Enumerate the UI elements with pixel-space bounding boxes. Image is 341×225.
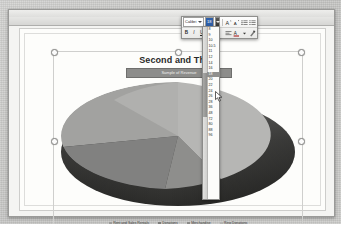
legend-label: Rent and Sales Rentals [113,221,149,224]
chart-object-frame[interactable]: Second and Third Sample of Revenue [53,51,303,224]
numbered-list-button[interactable] [249,18,256,26]
chevron-down-icon [198,21,202,23]
legend-item[interactable]: Ring Donations [220,221,248,224]
slide-canvas[interactable]: Second and Third Sample of Revenue [19,28,326,211]
pie-chart[interactable] [61,82,295,212]
pie-top-face [61,82,295,190]
font-color-button[interactable]: A [233,29,240,37]
font-size-value: 18 [207,19,211,24]
chevron-down-icon[interactable] [241,29,248,37]
legend-label: Merchandise [191,221,210,224]
grow-font-button[interactable]: A [225,18,232,26]
dropdown-option[interactable]: 96 [207,133,219,139]
legend-swatch-icon [158,222,161,225]
legend-swatch-icon [220,222,223,225]
app-root: Second and Third Sample of Revenue [0,0,341,224]
resize-handle-n[interactable] [175,49,182,56]
italic-button[interactable]: I [191,29,198,37]
legend-swatch-icon [187,222,190,225]
font-name-value: Calibri [185,19,196,24]
resize-handle-w[interactable] [51,138,58,145]
chart-title[interactable]: Second and Third [54,55,302,65]
resize-handle-ne[interactable] [298,49,305,56]
legend-swatch-icon [109,222,112,225]
shrink-font-button[interactable]: A [233,18,240,26]
ruler-bar[interactable] [9,17,334,26]
chevron-down-icon [216,21,220,23]
legend-label: Ring Donations [224,221,247,224]
chart-legend: Rent and Sales Rentals Donations Merchan… [54,221,302,224]
font-name-combobox[interactable]: Calibri [183,17,204,27]
legend-label: Donations [162,221,177,224]
legend-item[interactable]: Donations [158,221,178,224]
legend-item[interactable]: Rent and Sales Rentals [109,221,149,224]
format-painter-icon[interactable] [249,29,256,37]
document-window: Second and Third Sample of Revenue [8,9,335,217]
resize-handle-e[interactable] [298,138,305,145]
resize-handle-nw[interactable] [51,49,58,56]
font-size-dropdown-list[interactable]: 8 9 10 10.5 11 12 14 16 18 20 22 24 26 2… [202,26,220,200]
align-button[interactable] [225,29,232,37]
svg-text:A: A [234,30,238,35]
toolbar-separator [222,19,223,26]
dropdown-option-list: 8 9 10 10.5 11 12 14 16 18 20 22 24 26 2… [207,27,219,199]
svg-text:A: A [234,20,237,25]
bullet-list-button[interactable] [241,18,248,26]
legend-item[interactable]: Merchandise [187,221,211,224]
bold-button[interactable]: B [183,29,190,37]
svg-text:A: A [225,19,229,25]
